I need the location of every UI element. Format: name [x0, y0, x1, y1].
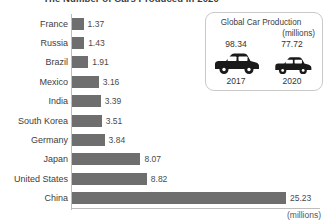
bar-value-label: 25.23	[290, 193, 311, 203]
bar	[72, 56, 88, 68]
bar-chart-figure: The Number of Cars Produced in 2020 Fran…	[0, 0, 326, 222]
bar-row: Germany 3.84	[0, 130, 326, 149]
inset-year: 2017	[208, 76, 264, 87]
bar-value-label: 3.16	[103, 77, 120, 87]
bar-value-label: 3.39	[105, 96, 122, 106]
bar-value-label: 3.84	[109, 135, 126, 145]
bar	[72, 76, 99, 88]
category-label: United States	[14, 174, 68, 184]
bar	[72, 192, 286, 204]
bar-row: India 3.39	[0, 92, 326, 111]
inset-value: 77.72	[264, 39, 320, 49]
category-label: India	[48, 96, 68, 106]
car-icon	[264, 49, 320, 76]
bar	[72, 134, 105, 146]
category-label: Japan	[43, 154, 68, 164]
category-label: Mexico	[39, 77, 68, 87]
inset-item-2017: 98.34 2017	[208, 39, 264, 87]
x-axis-line	[71, 208, 320, 209]
bar-row: Japan 8.07	[0, 150, 326, 169]
category-label: France	[40, 19, 68, 29]
bar-row: United States 8.82	[0, 169, 326, 188]
bar-row: South Korea 3.51	[0, 111, 326, 130]
bar	[72, 95, 101, 107]
category-label: South Korea	[18, 116, 68, 126]
bar	[72, 153, 140, 165]
bar-row: China 25.23	[0, 189, 326, 208]
inset-item-2020: 77.72 2020	[264, 39, 320, 87]
bar-value-label: 1.91	[92, 57, 109, 67]
bar	[72, 37, 84, 49]
page-title: The Number of Cars Produced in 2020	[0, 0, 262, 4]
category-label: Russia	[40, 38, 68, 48]
bar-value-label: 8.07	[144, 154, 161, 164]
bar	[72, 115, 102, 127]
bar-value-label: 3.51	[106, 116, 123, 126]
inset-title: Global Car Production	[206, 18, 316, 27]
bar-value-label: 8.82	[151, 174, 168, 184]
bar	[72, 18, 84, 30]
category-label: Brazil	[45, 57, 68, 67]
inset-value: 98.34	[208, 39, 264, 49]
bar	[72, 173, 147, 185]
inset-subtitle: (millions)	[282, 29, 315, 38]
bar-value-label: 1.37	[88, 19, 105, 29]
x-axis-unit-label: (millions)	[287, 210, 321, 220]
category-label: Germany	[31, 135, 68, 145]
category-label: China	[44, 193, 68, 203]
bar-value-label: 1.43	[88, 38, 105, 48]
global-production-inset: Global Car Production (millions) 98.34 2…	[205, 12, 323, 91]
car-icon	[208, 49, 264, 76]
inset-year: 2020	[264, 76, 320, 87]
